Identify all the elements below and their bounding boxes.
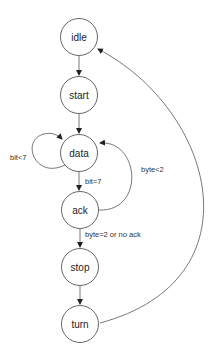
edge-ack-stop: byte=2 or no ack: [80, 229, 141, 247]
state-start-label: start: [69, 90, 89, 101]
edge-label-byte-lt-2: byte<2: [141, 165, 164, 174]
state-diagram: bit<7 bit=7 byte<2 byte=2 or no ack idle…: [0, 0, 210, 361]
state-data-label: data: [69, 148, 89, 159]
state-start: start: [61, 77, 98, 114]
state-stop: stop: [62, 249, 99, 286]
state-idle-label: idle: [71, 32, 87, 43]
state-ack-label: ack: [72, 205, 89, 216]
state-turn: turn: [62, 306, 99, 343]
edge-data-ack: bit=7: [79, 172, 101, 190]
edge-turn-idle: [98, 49, 204, 323]
state-ack: ack: [62, 192, 99, 229]
edge-label-byte-eq-2-or-no-ack: byte=2 or no ack: [85, 230, 141, 239]
state-stop-label: stop: [71, 262, 90, 273]
edge-ack-data: byte<2: [99, 143, 164, 210]
state-data: data: [61, 135, 98, 172]
edge-label-bit-eq-7: bit=7: [85, 177, 101, 186]
state-idle: idle: [61, 19, 98, 56]
edge-label-bit-lt-7: bit<7: [10, 153, 26, 162]
state-turn-label: turn: [71, 319, 88, 330]
edge-data-data-self-loop: bit<7: [10, 133, 65, 168]
